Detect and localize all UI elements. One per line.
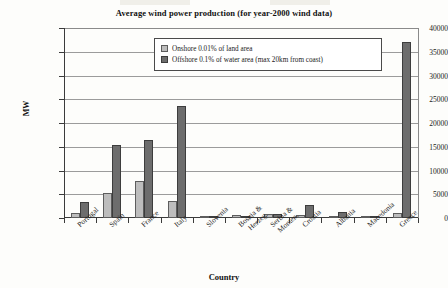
bar-offshore-france bbox=[144, 140, 153, 218]
x-tick-mark bbox=[225, 218, 226, 223]
bar-onshore-albania bbox=[329, 216, 338, 218]
bar-offshore-greece bbox=[402, 42, 411, 218]
x-tick-mark bbox=[161, 218, 162, 223]
bar-offshore-italy bbox=[177, 106, 186, 218]
bar-onshore-portugal bbox=[71, 213, 80, 218]
scan-artifact-right bbox=[270, 0, 330, 5]
legend-label-offshore: Offshore 0.1% of water area (max 20km fr… bbox=[172, 56, 323, 64]
chart-title: Average wind power production (for year-… bbox=[0, 8, 448, 18]
x-tick-mark bbox=[354, 218, 355, 223]
bar-onshore-greece bbox=[393, 213, 402, 218]
legend-label-onshore: Onshore 0.01% of land area bbox=[172, 45, 252, 53]
wind-power-bar-chart: Average wind power production (for year-… bbox=[0, 0, 448, 288]
x-tick-mark bbox=[193, 218, 194, 223]
bar-offshore-spain bbox=[112, 145, 121, 218]
bar-onshore-spain bbox=[103, 193, 112, 218]
legend-item-onshore: Onshore 0.01% of land area bbox=[161, 43, 375, 54]
x-tick-mark bbox=[96, 218, 97, 223]
x-tick-mark bbox=[128, 218, 129, 223]
x-axis-title: Country bbox=[0, 272, 448, 282]
chart-legend: Onshore 0.01% of land area Offshore 0.1%… bbox=[154, 38, 382, 71]
x-tick-mark bbox=[386, 218, 387, 223]
x-tick-mark bbox=[418, 218, 419, 223]
bar-group bbox=[96, 28, 128, 218]
bar-group bbox=[386, 28, 418, 218]
scan-artifact-left bbox=[120, 0, 190, 5]
y-axis-title: MW bbox=[22, 79, 31, 139]
x-tick-mark bbox=[321, 218, 322, 223]
x-tick-mark bbox=[64, 218, 65, 223]
bar-onshore-italy bbox=[168, 201, 177, 218]
bar-onshore-france bbox=[135, 181, 144, 218]
x-tick-mark bbox=[289, 218, 290, 223]
legend-item-offshore: Offshore 0.1% of water area (max 20km fr… bbox=[161, 54, 375, 65]
legend-swatch-onshore-icon bbox=[161, 45, 168, 52]
x-tick-mark bbox=[257, 218, 258, 223]
bar-group bbox=[64, 28, 96, 218]
legend-swatch-offshore-icon bbox=[161, 56, 168, 63]
